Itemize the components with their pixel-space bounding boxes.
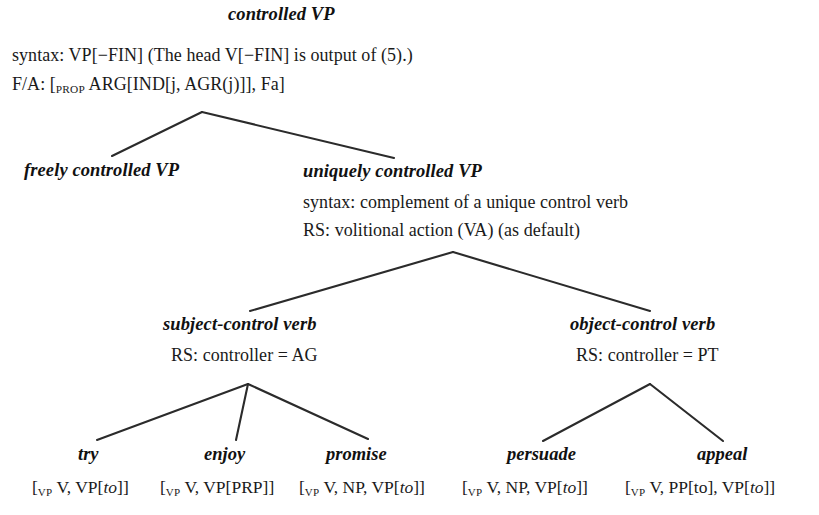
bracket-mid: V, VP[ — [52, 477, 103, 497]
bracket-subscript: VP — [38, 486, 53, 498]
node-freely-controlled-vp: freely controlled VP — [24, 160, 179, 181]
branch-root-right — [202, 112, 394, 158]
uniquely-syntax-line: syntax: complement of a unique control v… — [303, 192, 628, 213]
branch-subject-try — [97, 384, 248, 440]
leaf-label-enjoy: enjoy — [204, 444, 245, 465]
leaf-label-try: try — [78, 444, 99, 465]
node-uniquely-controlled-vp: uniquely controlled VP — [303, 161, 482, 182]
branch-object-appeal — [650, 384, 723, 441]
bracket-italic: to — [400, 477, 414, 497]
bracket-subscript: VP — [468, 486, 483, 498]
uniquely-rs-line: RS: volitional action (VA) (as default) — [303, 220, 580, 241]
bracket-mid: V, VP[PRP]] — [180, 477, 274, 497]
branch-subject-promise — [248, 384, 368, 439]
bracket-notation-persuade: [VP V, NP, VP[to]] — [462, 477, 588, 498]
object-control-rs-line: RS: controller = PT — [576, 345, 719, 366]
bracket-suffix: ]] — [117, 477, 129, 497]
bracket-notation-try: [VP V, VP[to]] — [32, 477, 129, 498]
bracket-mid: V, NP, VP[ — [319, 477, 399, 497]
bracket-italic: to — [750, 477, 764, 497]
root-syntax-line: syntax: VP[−FIN] (The head V[−FIN] is ou… — [12, 45, 413, 66]
node-controlled-vp: controlled VP — [228, 4, 335, 25]
bracket-subscript: VP — [305, 486, 320, 498]
bracket-suffix: ]] — [764, 477, 776, 497]
leaf-label-persuade: persuade — [507, 444, 576, 465]
subject-control-rs-line: RS: controller = AG — [171, 345, 318, 366]
bracket-notation-appeal: [VP V, PP[to], VP[to]] — [625, 477, 775, 498]
bracket-suffix: ]] — [413, 477, 425, 497]
branch-root-left — [112, 112, 202, 156]
leaf-label-promise: promise — [326, 444, 387, 465]
fa-subscript: PROP — [56, 83, 85, 95]
fa-rest: ARG[IND[j, AGR(j)]], Fa] — [85, 74, 285, 94]
bracket-subscript: VP — [166, 486, 181, 498]
branch-unique-right — [453, 252, 650, 311]
branch-unique-left — [250, 252, 453, 311]
bracket-italic: to — [563, 477, 577, 497]
branch-subject-enjoy — [236, 384, 248, 440]
fa-prefix: F/A: [ — [12, 74, 56, 94]
bracket-notation-enjoy: [VP V, VP[PRP]] — [160, 477, 274, 498]
bracket-notation-promise: [VP V, NP, VP[to]] — [299, 477, 425, 498]
bracket-subscript: VP — [631, 486, 646, 498]
branch-object-persuade — [543, 384, 650, 441]
node-object-control-verb: object-control verb — [570, 314, 715, 335]
bracket-mid: V, PP[to], VP[ — [645, 477, 750, 497]
bracket-italic: to — [103, 477, 117, 497]
root-fa-line: F/A: [PROP ARG[IND[j, AGR(j)]], Fa] — [12, 74, 285, 95]
bracket-mid: V, NP, VP[ — [482, 477, 562, 497]
bracket-suffix: ]] — [576, 477, 588, 497]
diagram-canvas: controlled VP syntax: VP[−FIN] (The head… — [0, 0, 819, 515]
leaf-label-appeal: appeal — [697, 444, 747, 465]
node-subject-control-verb: subject-control verb — [163, 314, 317, 335]
